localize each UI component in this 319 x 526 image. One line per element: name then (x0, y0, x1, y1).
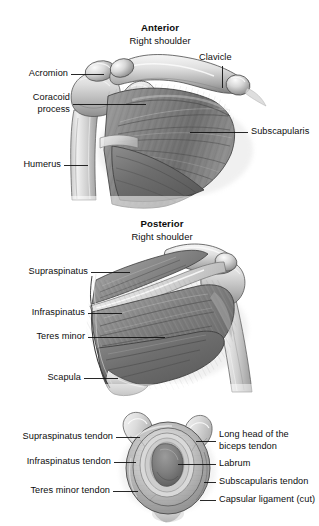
label-capsular-ligament: Capsular ligament (cut) (219, 494, 315, 505)
label-acromion: Acromion (0, 68, 68, 79)
label-labrum: Labrum (219, 458, 250, 469)
anterior-subheading: Right shoulder (114, 35, 206, 46)
label-teres-minor: Teres minor (0, 331, 85, 342)
label-scapula: Scapula (0, 372, 81, 383)
label-coracoid-line2: process (0, 104, 70, 115)
anterior-illustration (60, 55, 266, 218)
label-teres-minor-tendon: Teres minor tendon (0, 485, 110, 496)
posterior-heading: Posterior (130, 218, 194, 229)
label-subscapularis-tendon: Subscapularis tendon (219, 476, 308, 487)
label-humerus: Humerus (0, 159, 61, 170)
label-subscapularis: Subscapularis (251, 126, 309, 137)
posterior-subheading: Right shoulder (116, 231, 208, 242)
label-supraspinatus: Supraspinatus (0, 266, 88, 277)
label-coracoid-line1: Coracoid (0, 92, 70, 103)
glenoid-illustration (120, 412, 216, 522)
anterior-heading: Anterior (129, 22, 191, 33)
label-biceps-tendon-line1: Long head of the (219, 429, 289, 440)
posterior-illustration (84, 244, 256, 398)
label-supraspinatus-tendon: Supraspinatus tendon (0, 431, 113, 442)
label-clavicle: Clavicle (199, 52, 232, 63)
label-infraspinatus: Infraspinatus (0, 307, 85, 318)
rotator-cuff-figure: Anterior Right shoulder Acromion Coracoi… (0, 0, 319, 526)
label-biceps-tendon-line2: biceps tendon (219, 441, 277, 452)
label-infraspinatus-tendon: Infraspinatus tendon (0, 456, 111, 467)
